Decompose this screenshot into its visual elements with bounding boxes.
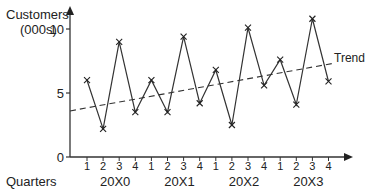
- year-label: 20X1: [164, 174, 194, 189]
- quarter-label: 3: [116, 160, 122, 172]
- year-label: 20X3: [293, 174, 323, 189]
- quarter-label: 4: [261, 160, 267, 172]
- quarter-label: 3: [181, 160, 187, 172]
- y-axis-label-line: Customers: [6, 7, 69, 22]
- quarter-label: 1: [213, 160, 219, 172]
- quarter-label: 2: [293, 160, 299, 172]
- x-axis-label: Quarters: [6, 174, 57, 189]
- y-ticks: 0510: [50, 22, 70, 165]
- year-labels: 20X020X120X220X3: [100, 174, 324, 189]
- quarter-label: 4: [132, 160, 138, 172]
- y-tick-label: 0: [57, 150, 64, 165]
- x-axis-arrow-icon: [344, 153, 353, 161]
- trend-line: Trend: [70, 51, 365, 111]
- quarter-label: 1: [277, 160, 283, 172]
- customers-series: [84, 16, 332, 132]
- trend-label: Trend: [334, 51, 365, 65]
- y-axis-label-line: (000s): [20, 22, 57, 37]
- quarter-label: 2: [100, 160, 106, 172]
- quarter-label: 1: [148, 160, 154, 172]
- customers-chart: 0510 Customers(000s) 1234123412341234 20…: [0, 0, 368, 190]
- year-label: 20X2: [229, 174, 259, 189]
- x-marker-icon: [84, 77, 90, 83]
- year-label: 20X0: [100, 174, 130, 189]
- quarter-label: 4: [325, 160, 331, 172]
- x-marker-icon: [148, 77, 154, 83]
- quarter-label: 1: [84, 160, 90, 172]
- quarter-label: 4: [197, 160, 203, 172]
- x-marker-icon: [277, 57, 283, 63]
- quarter-label: 2: [229, 160, 235, 172]
- customers-line: [87, 19, 329, 129]
- quarter-label: 3: [245, 160, 251, 172]
- y-tick-label: 5: [57, 86, 64, 101]
- quarter-label: 3: [309, 160, 315, 172]
- quarter-label: 2: [164, 160, 170, 172]
- x-ticks: 1234123412341234: [84, 157, 332, 172]
